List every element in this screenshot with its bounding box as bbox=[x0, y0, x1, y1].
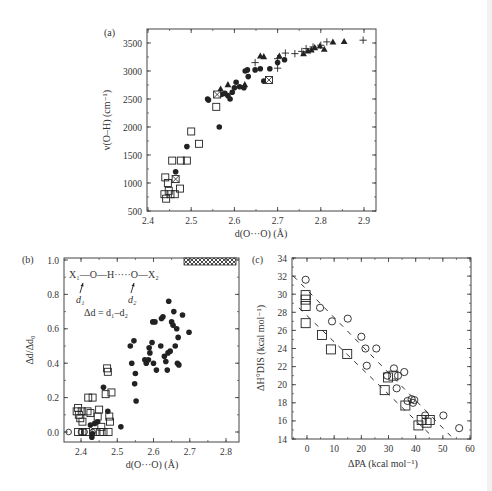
filled-circle-marker bbox=[171, 309, 177, 315]
filled-circle-marker bbox=[129, 360, 135, 366]
filled-circle-marker bbox=[167, 348, 173, 354]
y-tick-label: 500 bbox=[128, 207, 143, 217]
d1-label: d₁ bbox=[76, 294, 84, 305]
x-tick-label: 2.8 bbox=[315, 216, 327, 226]
filled-circle-marker bbox=[172, 343, 178, 349]
plus-marker bbox=[359, 37, 366, 44]
open-circle-marker bbox=[401, 368, 408, 375]
filled-circle-marker bbox=[151, 360, 157, 366]
y-tick-label: 1500 bbox=[123, 151, 142, 161]
filled-triangle-marker bbox=[330, 39, 337, 45]
open-square-marker bbox=[195, 140, 202, 147]
open-square-marker bbox=[213, 103, 220, 110]
x-tick-label: 2.9 bbox=[358, 216, 370, 226]
open-square-marker bbox=[85, 394, 92, 401]
panel-b: (b) 2.42.52.62.72.80.00.20.40.60.81.0 X₁… bbox=[22, 254, 239, 471]
open-circle-marker bbox=[440, 412, 447, 419]
hatched-band bbox=[184, 258, 236, 265]
plus-marker bbox=[323, 38, 330, 45]
y-tick-label: 22 bbox=[278, 362, 288, 372]
panel-a: (a) 2.42.52.62.72.82.9500100015002000250… bbox=[101, 27, 376, 240]
filled-circle-marker bbox=[105, 409, 111, 415]
panel-b-ylabel: Δd/Δd₀ bbox=[24, 335, 35, 365]
filled-circle-marker bbox=[147, 350, 153, 356]
filled-circle-marker bbox=[149, 340, 155, 346]
filled-circle-marker bbox=[164, 367, 170, 373]
open-circle-marker bbox=[362, 345, 369, 352]
delta-d-definition: Δd = d₁–d₂ bbox=[84, 307, 128, 318]
filled-circle-marker bbox=[90, 431, 96, 437]
x-tick-label: 30 bbox=[384, 444, 394, 454]
panel-a-label: (a) bbox=[104, 27, 115, 39]
y-tick-label: 2000 bbox=[123, 123, 142, 133]
x-tick-label: 2.6 bbox=[228, 216, 240, 226]
filled-circle-marker bbox=[206, 97, 212, 103]
d2-label: d₂ bbox=[128, 294, 137, 305]
y-tick-label: 28 bbox=[278, 308, 288, 318]
filled-circle-marker bbox=[176, 362, 182, 368]
panel-c-xlabel: ΔPA (kcal mol⁻¹) bbox=[348, 458, 418, 470]
open-square-marker bbox=[317, 330, 326, 339]
panel-a-data-points bbox=[161, 37, 367, 203]
y-tick-label: 0.4 bbox=[47, 359, 59, 369]
panel-c-data-points bbox=[301, 276, 463, 432]
filled-circle-marker bbox=[166, 298, 172, 304]
x-tick-label: 2.8 bbox=[220, 447, 232, 457]
open-square-marker bbox=[425, 415, 434, 424]
filled-circle-marker bbox=[180, 312, 186, 318]
plus-marker bbox=[251, 59, 258, 66]
filled-circle-marker bbox=[184, 144, 190, 150]
panel-b-xlabel: d(O···O) (Å) bbox=[126, 459, 178, 471]
filled-triangle-marker bbox=[225, 81, 232, 87]
panel-c: (c) 01020304050601416182022242628303234 … bbox=[252, 254, 475, 471]
y-tick-label: 16 bbox=[278, 416, 288, 426]
filled-circle-marker bbox=[282, 57, 288, 63]
filled-circle-marker bbox=[158, 343, 164, 349]
filled-circle-marker bbox=[154, 367, 160, 373]
open-square-marker bbox=[188, 128, 195, 135]
panel-b-label: (b) bbox=[22, 254, 34, 266]
y-tick-label: 32 bbox=[278, 272, 288, 282]
x-tick-label: 2.6 bbox=[148, 447, 160, 457]
filled-circle-marker bbox=[232, 85, 238, 91]
filled-circle-marker bbox=[258, 66, 264, 72]
panel-c-label: (c) bbox=[252, 254, 263, 266]
x-tick-label: 2.5 bbox=[111, 447, 123, 457]
y-tick-label: 20 bbox=[278, 380, 288, 390]
x-tick-label: 2.4 bbox=[75, 447, 87, 457]
open-circle-marker bbox=[302, 276, 309, 283]
filled-circle-marker bbox=[131, 338, 137, 344]
panel-b-ticks: 2.42.52.62.72.80.00.20.40.60.81.0 bbox=[47, 256, 239, 458]
filled-triangle-marker bbox=[241, 81, 248, 87]
filled-circle-marker bbox=[175, 335, 181, 341]
filled-circle-marker bbox=[245, 67, 251, 73]
panel-a-ylabel: ν(O–H) (cm⁻¹) bbox=[101, 90, 113, 150]
y-tick-label: 3500 bbox=[123, 39, 142, 49]
y-tick-label: 26 bbox=[278, 326, 288, 336]
y-tick-label: 30 bbox=[278, 290, 288, 300]
y-tick-label: 0.2 bbox=[47, 393, 59, 403]
y-tick-label: 0.0 bbox=[47, 428, 59, 438]
filled-circle-marker bbox=[245, 74, 251, 80]
filled-circle-marker bbox=[173, 169, 179, 175]
panel-c-ticks: 01020304050601416182022242628303234 bbox=[278, 254, 476, 455]
open-square-marker bbox=[89, 394, 96, 401]
open-circle-marker bbox=[328, 318, 335, 325]
filled-circle-marker bbox=[227, 96, 233, 102]
open-square-marker bbox=[414, 421, 423, 430]
bond-scheme-annotation: X₁—O—H·····O—X₂ bbox=[69, 269, 159, 280]
y-tick-label: 3000 bbox=[123, 67, 142, 77]
x-tick-label: 40 bbox=[411, 444, 421, 454]
filled-circle-marker bbox=[160, 314, 166, 320]
filled-circle-marker bbox=[216, 124, 222, 130]
panel-b-frame bbox=[64, 258, 239, 442]
x-tick-label: 2.7 bbox=[272, 216, 284, 226]
filled-triangle-marker bbox=[341, 38, 348, 44]
open-square-marker bbox=[96, 406, 103, 413]
open-square-marker bbox=[163, 195, 170, 202]
open-circle-marker bbox=[316, 304, 323, 311]
filled-triangle-marker bbox=[276, 53, 283, 59]
open-square-marker bbox=[301, 301, 310, 310]
panel-c-ylabel: ΔH°DIS (kcal mol⁻¹) bbox=[255, 305, 267, 391]
y-tick-label: 1000 bbox=[123, 179, 142, 189]
